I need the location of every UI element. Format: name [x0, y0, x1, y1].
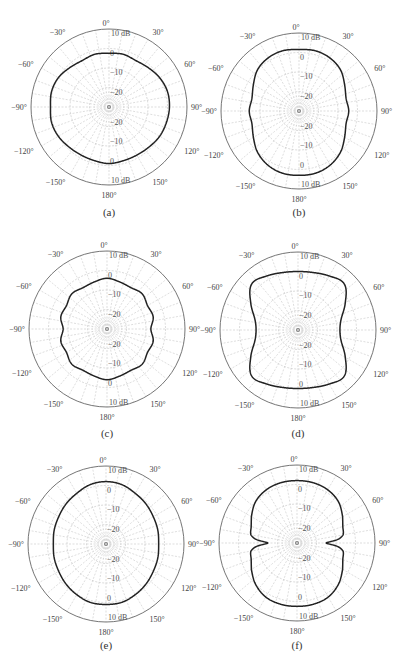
angle-label: −120° [202, 583, 222, 592]
caption-a: (a) [89, 206, 129, 218]
caption-c: (c) [87, 427, 127, 439]
caption-f: (f) [277, 639, 317, 651]
angle-label: 60° [372, 496, 383, 505]
angle-label: −90° [199, 539, 215, 548]
grid [219, 465, 375, 621]
angle-label: 90° [379, 539, 390, 548]
angle-label: −30° [238, 464, 254, 473]
angle-label: 0° [290, 455, 297, 464]
figure: 10 dB10 dB00−10−10−20−200°30°60°90°120°1… [0, 0, 403, 664]
polar-plot-svg: 10 dB10 dB00−10−10−20−200°30°60°90°120°1… [0, 0, 403, 664]
caption-e: (e) [86, 639, 126, 651]
polar-plot-f: 10 dB10 dB00−10−10−20−200°30°60°90°120°1… [0, 0, 200, 220]
angle-label: 30° [341, 464, 352, 473]
angle-label: 120° [372, 583, 387, 592]
angle-label: −150° [234, 614, 254, 623]
caption-d: (d) [278, 427, 318, 439]
radial-label: 0 [298, 593, 302, 602]
angle-label: −60° [206, 496, 222, 505]
caption-b: (b) [279, 206, 319, 218]
angle-label: 150° [341, 614, 356, 623]
radial-label: −20 [298, 554, 311, 563]
radial-label: −10 [298, 504, 311, 513]
radial-label: 10 dB [299, 465, 318, 474]
angle-label: 180° [289, 627, 304, 636]
radial-label: −20 [298, 524, 311, 533]
radial-label: 10 dB [299, 612, 318, 621]
radial-label: −10 [298, 573, 311, 582]
radial-label: 0 [298, 485, 302, 494]
